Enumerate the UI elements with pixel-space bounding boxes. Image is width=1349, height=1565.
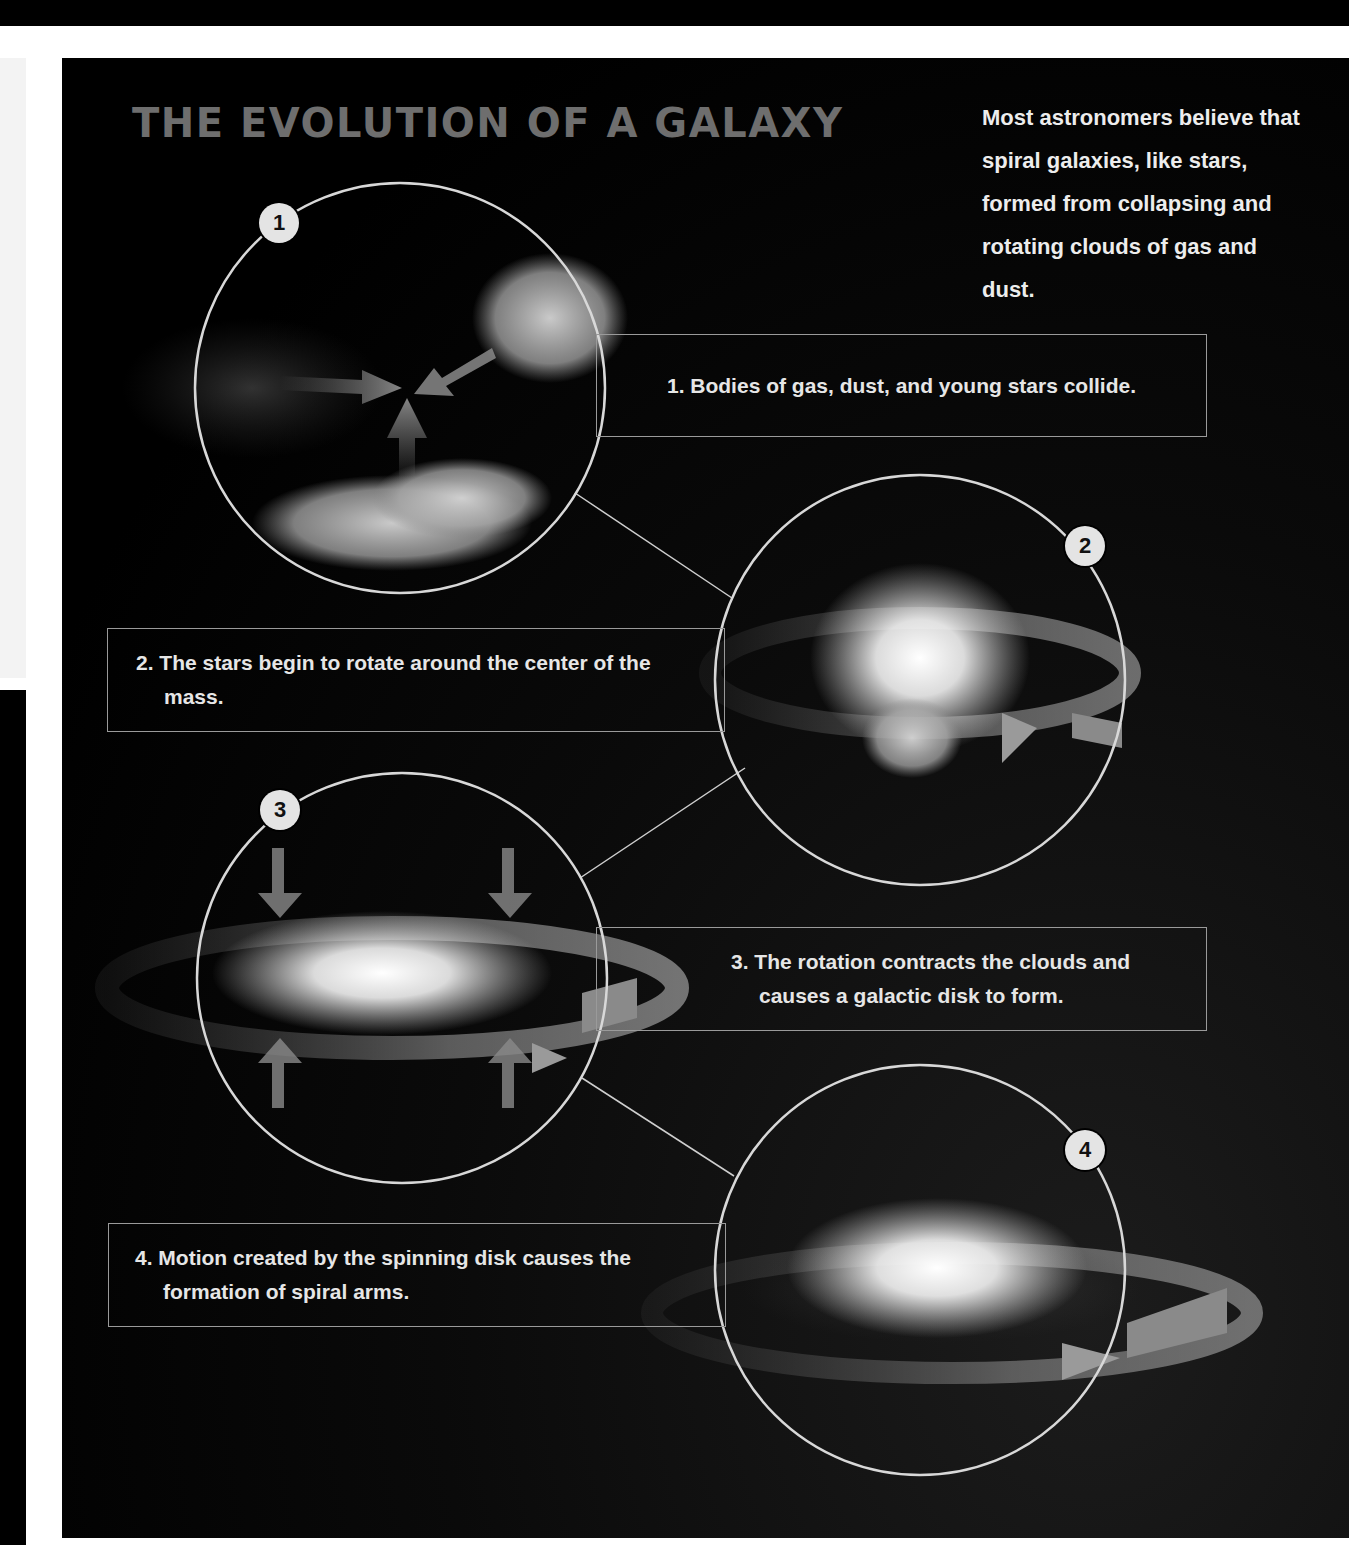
stage-4-illustration [652, 1198, 1252, 1380]
connector-lines [575, 493, 745, 1176]
left-dark-strip [0, 690, 26, 1545]
stage-3-badge: 3 [260, 790, 300, 830]
left-page-margin [0, 58, 26, 678]
stage-4-badge: 4 [1065, 1130, 1105, 1170]
stage-4-caption-box: 4. Motion created by the spinning disk c… [108, 1223, 726, 1327]
stage-3-illustration [107, 848, 677, 1108]
infographic-panel: THE EVOLUTION OF A GALAXY Most astronome… [62, 58, 1349, 1538]
stage-2-caption-box: 2. The stars begin to rotate around the … [107, 628, 725, 732]
stage-3-caption-box: 3. The rotation contracts the clouds and… [596, 927, 1207, 1031]
stage-2-illustration [710, 563, 1130, 778]
top-border-strip [0, 0, 1349, 26]
stage-1-caption: 1. Bodies of gas, dust, and young stars … [667, 369, 1136, 403]
stage-1-illustration [122, 253, 628, 571]
stage-3-caption: 3. The rotation contracts the clouds and… [731, 945, 1199, 1013]
stage-1-badge: 1 [259, 203, 299, 243]
stage-2-badge: 2 [1065, 526, 1105, 566]
stage-4-caption: 4. Motion created by the spinning disk c… [135, 1241, 683, 1309]
infographic-title: THE EVOLUTION OF A GALAXY [132, 100, 843, 146]
intro-paragraph: Most astronomers believe that spiral gal… [982, 96, 1312, 311]
stage-2-caption: 2. The stars begin to rotate around the … [136, 646, 684, 714]
stage-1-caption-box: 1. Bodies of gas, dust, and young stars … [596, 334, 1207, 437]
